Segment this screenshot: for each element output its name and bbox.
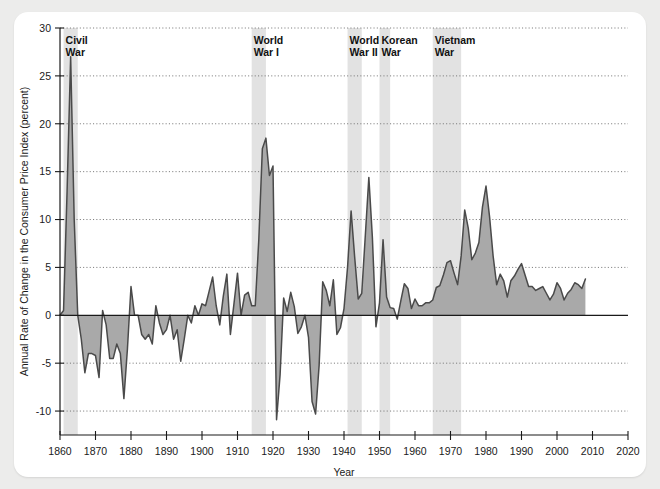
x-axis-title: Year [333,466,355,477]
x-tick-label-1950: 1950 [368,445,392,457]
x-tick-label-1910: 1910 [226,445,250,457]
war-label-civil-war-line1: Civil [66,34,88,46]
war-label-world-war-ii-line2: War II [350,46,378,58]
y-tick-label--10: -10 [36,405,51,417]
x-tick-label-1890: 1890 [155,445,179,457]
x-tick-label-2010: 2010 [581,445,605,457]
y-tick-label-25: 25 [39,70,51,82]
war-band-korean-war [380,28,391,435]
cpi-inflation-chart: 302520151050-5-1018601870188018901900191… [14,12,646,477]
y-tick-label--5: -5 [42,357,51,369]
x-tick-label-1970: 1970 [439,445,463,457]
war-band-vietnam-war [433,28,461,435]
x-tick-label-2020: 2020 [616,445,640,457]
x-tick-label-1880: 1880 [119,445,143,457]
war-label-korean-war-line1: Korean [382,34,418,46]
y-tick-label-15: 15 [39,165,51,177]
y-tick-label-20: 20 [39,118,51,130]
x-tick-label-1980: 1980 [474,445,498,457]
series-area-fill [60,57,585,420]
war-label-civil-war-line2: War [66,46,85,58]
y-tick-label-0: 0 [45,309,51,321]
x-tick-label-1930: 1930 [297,445,321,457]
x-tick-label-1860: 1860 [48,445,72,457]
x-tick-label-1940: 1940 [332,445,356,457]
chart-svg: 302520151050-5-1018601870188018901900191… [14,12,646,477]
x-tick-label-1900: 1900 [190,445,214,457]
x-tick-label-1960: 1960 [403,445,427,457]
x-tick-label-1920: 1920 [261,445,285,457]
y-tick-label-30: 30 [39,22,51,34]
war-label-vietnam-war-line1: Vietnam [435,34,476,46]
war-label-korean-war-line2: War [382,46,401,58]
war-label-world-war-ii-line1: World [350,34,380,46]
war-label-world-war-i-line1: World [254,34,284,46]
war-label-vietnam-war-line2: War [435,46,454,58]
x-tick-label-2000: 2000 [545,445,569,457]
y-tick-label-10: 10 [39,213,51,225]
y-tick-label-5: 5 [45,261,51,273]
x-tick-label-1990: 1990 [510,445,534,457]
war-label-world-war-i-line2: War I [254,46,279,58]
series-line [60,57,585,420]
y-axis-title: Annual Rate of Change in the Consumer Pr… [18,87,30,377]
chart-card: 302520151050-5-1018601870188018901900191… [14,12,646,477]
x-tick-label-1870: 1870 [84,445,108,457]
